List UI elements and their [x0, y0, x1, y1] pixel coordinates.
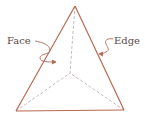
edge-apex-left — [16, 6, 75, 111]
hidden-edge-left-center — [16, 73, 70, 111]
edge-label: Edge — [114, 35, 140, 46]
hidden-edge-apex-center — [70, 6, 75, 73]
edge-bottom — [16, 110, 124, 111]
tetrahedron-diagram: Face Edge — [0, 0, 145, 119]
hidden-edges — [16, 6, 124, 111]
visible-edges — [16, 6, 124, 111]
face-label: Face — [7, 35, 31, 46]
edge-apex-right — [75, 6, 124, 110]
edge-arrow-icon — [99, 39, 113, 56]
